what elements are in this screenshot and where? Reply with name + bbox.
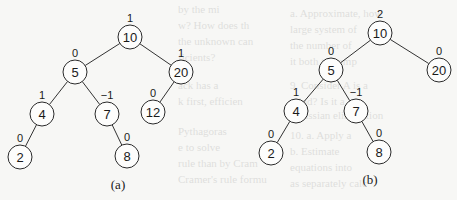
balance-factor-label: 1 — [293, 86, 299, 98]
tree-node-4: 41 — [30, 89, 54, 126]
tree-b: 10250200417−12080(b) — [259, 8, 451, 187]
tree-node-2: 20 — [8, 132, 32, 169]
balance-factor-label: −1 — [350, 86, 363, 98]
tree-edge — [362, 121, 373, 141]
tree-caption: (a) — [111, 177, 125, 192]
balance-factor-label: 0 — [17, 132, 23, 144]
balance-factor-label: 1 — [127, 12, 133, 24]
balance-factor-label: 0 — [72, 47, 78, 59]
tree-node-12: 120 — [141, 87, 165, 124]
tree-edge — [390, 39, 429, 63]
balance-factor-label: 0 — [124, 131, 130, 143]
node-value: 10 — [373, 26, 387, 41]
balance-factor-label: 0 — [436, 45, 442, 57]
tree-edge — [304, 79, 323, 102]
tree-edge — [85, 43, 120, 65]
tree-node-10: 101 — [118, 12, 142, 49]
balance-factor-label: 0 — [328, 45, 334, 57]
node-value: 8 — [375, 145, 382, 160]
balance-factor-label: 1 — [178, 47, 184, 59]
node-value: 10 — [123, 30, 137, 45]
tree-node-5: 50 — [63, 47, 87, 84]
node-value: 5 — [327, 63, 334, 78]
tree-edge — [112, 125, 122, 145]
node-value: 8 — [123, 149, 130, 164]
balance-factor-label: 0 — [268, 128, 274, 140]
tree-node-20: 201 — [169, 47, 193, 84]
balance-factor-label: 0 — [376, 127, 382, 139]
node-value: 5 — [71, 65, 78, 80]
tree-edge — [277, 121, 290, 142]
tree-edge — [337, 80, 350, 101]
tree-node-8: 80 — [367, 127, 391, 164]
tree-a: 10150201417−11202080(a) — [8, 12, 193, 192]
tree-edge — [82, 82, 99, 105]
tree-node-20: 200 — [427, 45, 451, 82]
tree-edge — [160, 82, 174, 102]
tree-node-8: 80 — [115, 131, 139, 168]
node-value: 4 — [38, 107, 45, 122]
node-value: 7 — [352, 104, 359, 119]
balance-factor-label: 1 — [39, 89, 45, 101]
tree-node-4: 41 — [284, 86, 308, 123]
node-value: 2 — [16, 150, 23, 165]
node-value: 2 — [267, 146, 274, 161]
tree-caption: (b) — [362, 172, 377, 187]
tree-edge — [49, 81, 67, 104]
node-value: 20 — [174, 65, 188, 80]
balance-factor-label: 2 — [377, 8, 383, 20]
node-value: 20 — [432, 63, 446, 78]
tree-edge — [140, 44, 171, 65]
tree-edge — [25, 125, 36, 147]
node-value: 12 — [146, 105, 160, 120]
tree-node-10: 102 — [368, 8, 392, 45]
tree-node-7: 7−1 — [344, 86, 368, 123]
tree-node-7: 7−1 — [95, 89, 119, 126]
node-value: 7 — [103, 107, 110, 122]
tree-edge — [341, 40, 371, 63]
tree-node-5: 50 — [319, 45, 343, 82]
avl-tree-diagram: 10150201417−11202080(a) 10250200417−1208… — [0, 0, 457, 200]
balance-factor-label: −1 — [101, 89, 114, 101]
tree-node-2: 20 — [259, 128, 283, 165]
node-value: 4 — [292, 104, 299, 119]
balance-factor-label: 0 — [150, 87, 156, 99]
